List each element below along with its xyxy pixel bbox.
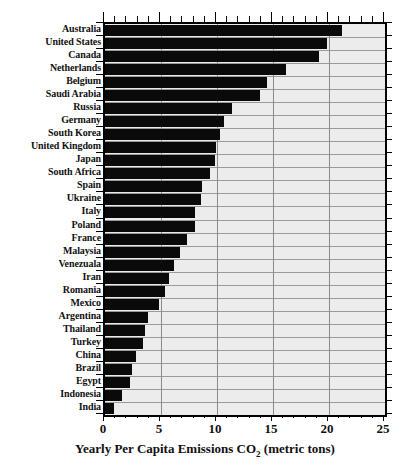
bar-row — [105, 129, 385, 140]
tick-minor-bottom — [372, 415, 373, 418]
tick-right — [385, 309, 392, 310]
bar — [105, 377, 130, 388]
tick-minor-bottom — [237, 415, 238, 418]
bar-row — [105, 403, 385, 414]
tick-major-top — [271, 12, 272, 22]
tick-minor-top — [237, 16, 238, 22]
tick-minor-top — [226, 16, 227, 22]
bar-row — [105, 364, 385, 375]
tick-left — [96, 296, 103, 297]
bar — [105, 142, 216, 153]
category-label: Belgium — [1, 75, 101, 86]
category-label: Germany — [1, 114, 101, 125]
tick-minor-bottom — [349, 415, 350, 418]
tick-right — [385, 283, 392, 284]
tick-left — [96, 400, 103, 401]
bar-row — [105, 38, 385, 49]
tick-minor-bottom — [114, 415, 115, 418]
tick-left — [96, 204, 103, 205]
tick-minor-top — [361, 16, 362, 22]
bar-row — [105, 325, 385, 336]
tick-minor-bottom — [193, 415, 194, 418]
tick-minor-top — [293, 16, 294, 22]
bar-row — [105, 142, 385, 153]
bar — [105, 260, 174, 271]
bar-row — [105, 338, 385, 349]
category-label: South Africa — [1, 166, 101, 177]
tick-minor-bottom — [338, 415, 339, 418]
category-label: Indonesia — [1, 388, 101, 399]
tick-left — [96, 218, 103, 219]
bar-row — [105, 299, 385, 310]
bar-row — [105, 234, 385, 245]
tick-left — [96, 48, 103, 49]
tick-right — [385, 322, 392, 323]
tick-minor-top — [372, 16, 373, 22]
category-label: Argentina — [1, 310, 101, 321]
emissions-bar-chart: AustraliaUnited StatesCanadaNetherlandsB… — [0, 0, 410, 469]
tick-right — [385, 413, 392, 414]
tick-right — [385, 348, 392, 349]
x-tick-label: 20 — [307, 421, 347, 437]
bar — [105, 221, 195, 232]
tick-right — [385, 100, 392, 101]
tick-right — [385, 152, 392, 153]
tick-major-top — [215, 12, 216, 22]
bar — [105, 299, 159, 310]
category-label: Turkey — [1, 336, 101, 347]
tick-minor-bottom — [293, 415, 294, 418]
category-label: Ukraine — [1, 192, 101, 203]
bar — [105, 207, 195, 218]
category-label: Iran — [1, 271, 101, 282]
tick-minor-top — [170, 16, 171, 22]
tick-minor-bottom — [181, 415, 182, 418]
bar — [105, 25, 342, 36]
bar — [105, 168, 210, 179]
category-label: Saudi Arabia — [1, 88, 101, 99]
tick-minor-bottom — [137, 415, 138, 418]
x-axis-title: Yearly Per Capita Emissions CO2 (metric … — [0, 441, 410, 459]
tick-major-top — [327, 12, 328, 22]
x-tick-label: 25 — [363, 421, 403, 437]
category-label: China — [1, 349, 101, 360]
x-axis-title-main: Yearly Per Capita Emissions CO — [75, 441, 256, 456]
tick-left — [96, 361, 103, 362]
tick-minor-bottom — [316, 415, 317, 418]
tick-minor-bottom — [361, 415, 362, 418]
category-label: Japan — [1, 153, 101, 164]
bar-row — [105, 377, 385, 388]
bar — [105, 325, 145, 336]
bar — [105, 181, 202, 192]
bar-row — [105, 25, 385, 36]
bar — [105, 390, 122, 401]
tick-minor-top — [193, 16, 194, 22]
tick-minor-bottom — [282, 415, 283, 418]
tick-minor-top — [148, 16, 149, 22]
category-label: Thailand — [1, 323, 101, 334]
tick-right — [385, 178, 392, 179]
tick-minor-top — [249, 16, 250, 22]
tick-major-top — [103, 12, 104, 22]
bar-row — [105, 312, 385, 323]
bar-row — [105, 247, 385, 258]
tick-right — [385, 204, 392, 205]
tick-left — [96, 178, 103, 179]
tick-minor-top — [125, 16, 126, 22]
bar-row — [105, 207, 385, 218]
bar-row — [105, 181, 385, 192]
tick-right — [385, 296, 392, 297]
tick-minor-top — [305, 16, 306, 22]
tick-right — [385, 270, 392, 271]
category-label: Spain — [1, 179, 101, 190]
tick-minor-top — [260, 16, 261, 22]
bar-row — [105, 260, 385, 271]
bar — [105, 286, 165, 297]
category-label: Canada — [1, 49, 101, 60]
tick-right — [385, 87, 392, 88]
bar — [105, 64, 286, 75]
category-label: Poland — [1, 219, 101, 230]
x-tick-label: 15 — [251, 421, 291, 437]
tick-minor-top — [282, 16, 283, 22]
category-label: South Korea — [1, 127, 101, 138]
category-label: Brazil — [1, 362, 101, 373]
